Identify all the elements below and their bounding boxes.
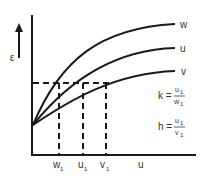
formula-k: k = u 1 w 1 <box>158 86 185 107</box>
svg-text:1: 1 <box>106 166 110 172</box>
svg-text:u: u <box>175 117 179 124</box>
svg-text:h =: h = <box>158 121 172 132</box>
diagram-canvas: ε w u v w 1 u 1 v 1 u k = u 1 w 1 h = u … <box>0 0 203 183</box>
svg-text:u: u <box>78 159 84 170</box>
svg-text:v: v <box>100 159 105 170</box>
curve-label-w: w <box>179 19 188 30</box>
formula-h: h = u 1 v 1 <box>158 117 185 138</box>
marker-w1: w 1 <box>52 159 64 172</box>
x-axis-label: u <box>138 159 144 170</box>
svg-text:1: 1 <box>180 89 184 95</box>
svg-text:1: 1 <box>180 132 184 138</box>
curve-label-v: v <box>181 66 186 77</box>
curve-label-u: u <box>180 43 186 54</box>
y-arrow-icon <box>15 23 23 58</box>
svg-text:k =: k = <box>158 90 172 101</box>
svg-text:v: v <box>175 129 179 136</box>
svg-text:u: u <box>175 86 179 93</box>
curve-w <box>33 24 175 125</box>
svg-text:w: w <box>173 98 180 105</box>
svg-text:1: 1 <box>180 101 184 107</box>
marker-v1: v 1 <box>100 159 110 172</box>
svg-text:1: 1 <box>60 166 64 172</box>
svg-text:1: 1 <box>180 120 184 126</box>
svg-text:1: 1 <box>84 166 88 172</box>
marker-u1: u 1 <box>78 159 88 172</box>
y-axis-label: ε <box>10 52 15 63</box>
curve-v <box>33 71 175 125</box>
